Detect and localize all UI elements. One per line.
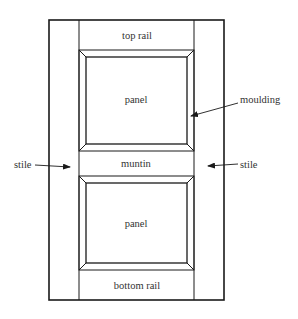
stile-right-arrow — [208, 164, 238, 166]
moulding-arrow — [191, 103, 238, 116]
stile-left-arrow — [35, 165, 70, 167]
label-top-panel: panel — [125, 94, 148, 105]
label-bottom-rail: bottom rail — [114, 280, 160, 291]
label-top-rail: top rail — [122, 30, 152, 41]
label-moulding: moulding — [240, 94, 281, 105]
label-muntin: muntin — [121, 158, 152, 169]
door-diagram: top rail panel muntin panel bottom rail … — [0, 0, 298, 319]
label-stile-right: stile — [240, 159, 258, 170]
label-stile-left: stile — [14, 159, 32, 170]
label-bottom-panel: panel — [125, 218, 148, 229]
